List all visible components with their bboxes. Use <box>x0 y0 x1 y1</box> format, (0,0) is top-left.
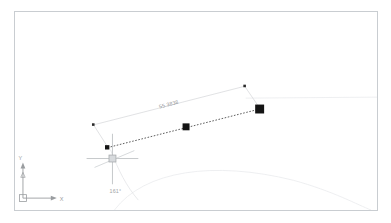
grip-points-group[interactable] <box>105 105 264 150</box>
cursor-pickbox[interactable] <box>109 155 116 162</box>
dimension-value-text: 55.3838 <box>158 99 179 110</box>
grip-endpoint-right[interactable] <box>255 105 264 114</box>
dimension-extension-line-left <box>94 125 108 147</box>
grip-midpoint[interactable] <box>183 123 190 130</box>
ucs-icon: Y X <box>18 156 63 202</box>
angle-value-text: 161° <box>109 188 121 194</box>
dimension-tick-right <box>243 85 246 88</box>
drawing-area[interactable]: 55.3838 161° <box>15 12 377 210</box>
ucs-y-label: Y <box>18 156 22 162</box>
crosshair-cursor[interactable] <box>87 134 139 184</box>
angle-annotation: 161° <box>109 188 121 194</box>
grip-endpoint-left[interactable] <box>105 145 109 149</box>
dimension-tick-left <box>92 123 95 126</box>
reference-line-horizontal <box>246 97 377 98</box>
drawing-canvas-frame[interactable]: 55.3838 161° <box>14 11 378 211</box>
reference-geometry-group <box>110 97 377 210</box>
ucs-x-arrowhead-icon <box>51 196 57 201</box>
ucs-y-arrowhead-icon <box>21 162 26 168</box>
construction-arc-large <box>114 170 371 210</box>
cad-application-window: 55.3838 161° <box>0 0 391 223</box>
ucs-x-label: X <box>60 196 64 202</box>
